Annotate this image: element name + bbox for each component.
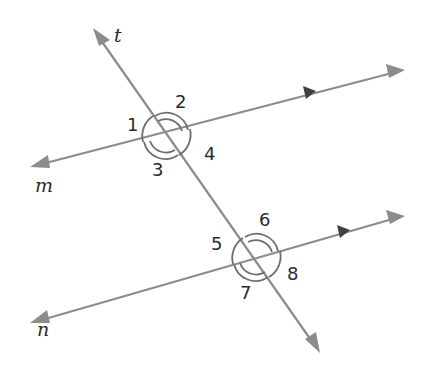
angle-label-4: 4 [204,143,215,164]
angle-label-2: 2 [175,91,186,112]
angle-label-1: 1 [127,114,138,135]
parallel-marker-icon [337,225,350,238]
angle-label-6: 6 [259,209,270,230]
arrowhead-icon [30,155,50,168]
arrowhead-icon [386,64,405,78]
parallel-line-n [30,210,405,323]
parallel-line-m [30,64,405,168]
angle-label-3: 3 [152,159,163,180]
label-t: t [114,24,122,46]
angle-label-5: 5 [211,233,222,254]
transversal-line-t [93,28,320,353]
parallel-lines-transversal-diagram: t m n 1 2 3 4 5 6 7 8 [0,0,425,373]
label-m: m [35,174,53,196]
arrowhead-icon [386,210,405,224]
angle-label-8: 8 [287,263,298,284]
label-n: n [37,318,49,340]
arrowhead-icon [93,28,110,46]
parallel-marker-icon [303,86,316,99]
angle-label-7: 7 [240,282,251,303]
